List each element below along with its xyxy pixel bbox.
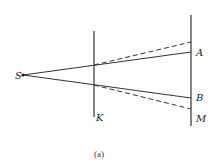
dashed-ray-lower [94,85,191,109]
label-a: A [195,47,203,58]
label-m: M [195,113,207,124]
source-point [21,73,24,76]
diagram-canvas: S K A B M (a) [0,0,216,167]
label-s: S [15,70,22,81]
solid-ray-upper [23,52,191,75]
label-b: B [195,92,203,103]
label-k: K [95,112,104,123]
solid-ray-lower [23,75,191,98]
caption: (a) [94,149,104,159]
